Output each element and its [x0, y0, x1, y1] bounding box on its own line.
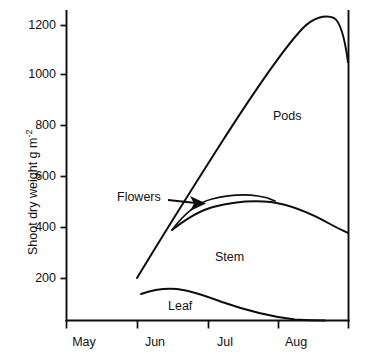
- x-tick-label-may: May: [72, 336, 96, 349]
- series-curve-pods: [137, 16, 348, 278]
- y-axis-title: Shoot dry weight g m-2: [27, 97, 40, 287]
- x-tick-label-jun: Jun: [145, 336, 165, 349]
- series-label-flowers: Flowers: [117, 191, 161, 204]
- x-tick-marks: [67, 321, 349, 329]
- y-axis-title-text: Shoot dry weight g m: [26, 138, 40, 255]
- series-label-leaf: Leaf: [168, 300, 192, 313]
- x-tick-label-jul: Jul: [217, 336, 233, 349]
- y-tick-label-1000: 1000: [6, 68, 56, 81]
- y-axis-title-exponent: -2: [24, 130, 34, 138]
- series-curve-flowers: [172, 195, 275, 230]
- series-label-stem: Stem: [215, 251, 244, 264]
- chart-container: 1200 1000 800 600 400 200 May Jun Jul Au…: [0, 0, 367, 363]
- series-label-pods: Pods: [273, 110, 302, 123]
- x-tick-label-aug: Aug: [285, 336, 307, 349]
- y-tick-label-1200: 1200: [6, 19, 56, 32]
